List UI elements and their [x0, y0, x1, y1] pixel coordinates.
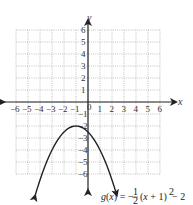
- x-tick-label: −6: [10, 104, 20, 114]
- x-axis-label: x: [177, 96, 183, 107]
- x-tick-label: 5: [146, 104, 151, 114]
- y-tick-label: −1: [78, 109, 88, 119]
- x-tick-label: 0: [87, 102, 92, 112]
- y-tick-label: 4: [81, 49, 86, 59]
- x-tick-label: −4: [34, 104, 44, 114]
- x-tick-label: −3: [46, 104, 56, 114]
- x-tick-label: −5: [22, 104, 32, 114]
- y-tick-label: −6: [78, 169, 88, 179]
- y-tick-label: −3: [78, 133, 88, 143]
- y-tick-label: 1: [81, 85, 86, 95]
- y-tick-label: 6: [81, 25, 86, 35]
- graph: −6−5−4−3−2−10123456654321−1−2−3−4−5−6 y …: [0, 0, 193, 205]
- svg-text:2: 2: [133, 195, 138, 205]
- x-tick-label: 2: [110, 104, 115, 114]
- y-tick-label: 3: [81, 61, 86, 71]
- y-tick-label: −5: [78, 157, 88, 167]
- x-tick-label: 6: [158, 104, 163, 114]
- x-tick-label: 3: [122, 104, 127, 114]
- function-label: g(x) = − 1 2 (x + 1) 2 − 2: [101, 186, 185, 205]
- svg-text:g(x) = −: g(x) = −: [101, 191, 134, 203]
- svg-text:(x + 1): (x + 1): [140, 191, 167, 203]
- x-tick-label: 1: [98, 104, 103, 114]
- y-tick-label: 2: [81, 73, 86, 83]
- svg-text:− 2: − 2: [172, 191, 185, 202]
- y-axis-label: y: [86, 12, 92, 23]
- x-tick-label: 4: [134, 104, 139, 114]
- y-tick-label: −4: [78, 145, 88, 155]
- x-tick-label: −2: [58, 104, 68, 114]
- y-tick-label: 5: [81, 37, 86, 47]
